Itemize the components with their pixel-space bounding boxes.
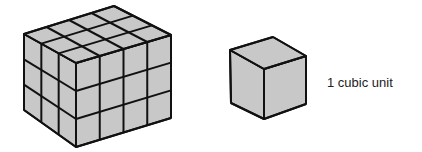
unit-cube (230, 37, 306, 119)
unit-cube-label: 1 cubic unit (327, 75, 393, 90)
cube-edge (230, 50, 231, 103)
large-rectangular-prism (24, 6, 171, 147)
